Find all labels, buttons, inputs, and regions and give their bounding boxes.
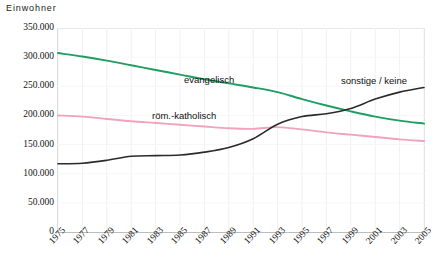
y-tick-label: 50.000 — [2, 198, 54, 208]
y-tick-label: 100.000 — [2, 169, 54, 179]
y-tick-label: 0 — [2, 227, 54, 237]
y-tick-label: 250.000 — [2, 81, 54, 91]
y-tick-label: 300.000 — [2, 52, 54, 62]
series-label-evangelisch: evangelisch — [184, 74, 234, 85]
series-canvas — [57, 28, 425, 232]
line-chart: Einwohner 350.000300.000250.000200.00015… — [0, 0, 437, 280]
y-tick-label: 350.000 — [2, 23, 54, 33]
plot-area — [57, 28, 425, 232]
series-line-1 — [58, 115, 424, 141]
series-label-sonstige-keine: sonstige / keine — [341, 75, 407, 86]
y-tick-label: 200.000 — [2, 110, 54, 120]
y-tick-label: 150.000 — [2, 140, 54, 150]
series-line-2 — [58, 87, 424, 163]
series-label-roem-katholisch: röm.-katholisch — [152, 110, 216, 121]
series-line-0 — [58, 53, 424, 124]
y-axis-tick-labels: 350.000300.000250.000200.000150.000100.0… — [0, 0, 54, 280]
